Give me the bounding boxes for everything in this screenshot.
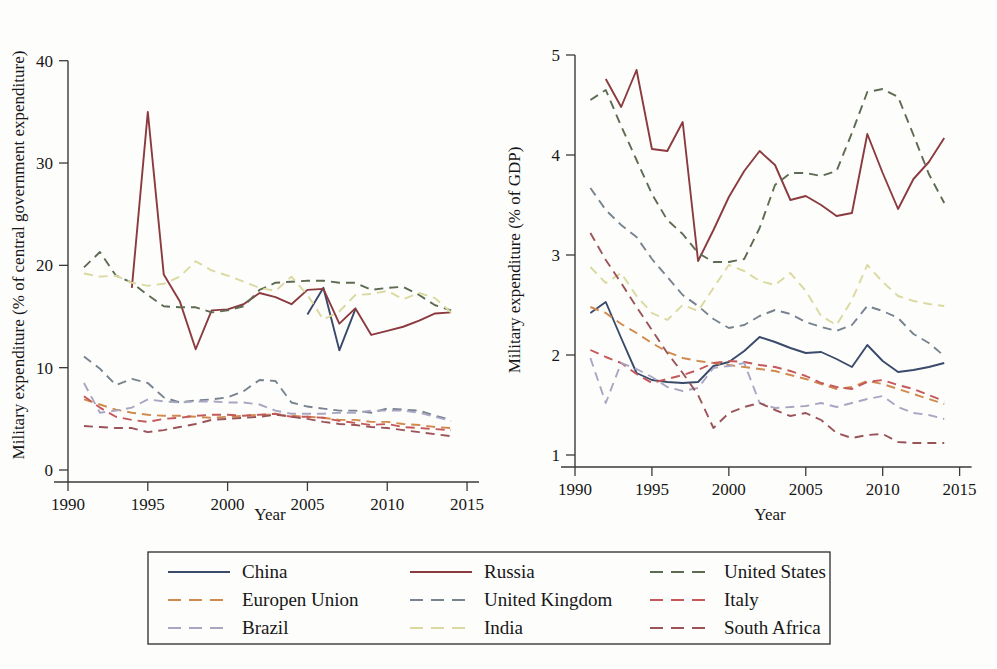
x-tick-label: 2000: [712, 480, 746, 499]
y-tick-label: 2: [552, 346, 561, 365]
legend-label-united-kingdom: United Kingdom: [484, 589, 612, 610]
y-tick-label: 4: [552, 146, 561, 165]
right-xlabel: Year: [754, 505, 786, 524]
legend-label-south-africa: South Africa: [724, 617, 821, 638]
left-xlabel: Year: [254, 505, 286, 524]
legend: ChinaRussiaUnited StatesEuropen UnionUni…: [148, 552, 830, 644]
x-tick-label: 1995: [635, 480, 669, 499]
y-tick-label: 10: [36, 359, 53, 378]
x-tick-label: 2010: [866, 480, 900, 499]
y-tick-label: 0: [45, 461, 54, 480]
legend-entries: ChinaRussiaUnited StatesEuropen UnionUni…: [168, 561, 826, 638]
figure-container: 010203040199019952000200520102015 Milita…: [0, 0, 997, 669]
legend-label-india: India: [484, 617, 524, 638]
legend-label-china: China: [242, 561, 288, 582]
y-tick-label: 1: [552, 446, 561, 465]
y-tick-label: 20: [36, 256, 53, 275]
x-tick-label: 1995: [131, 495, 165, 514]
x-tick-label: 1990: [51, 495, 85, 514]
x-tick-label: 1990: [558, 480, 592, 499]
military-expenditure-figure: 010203040199019952000200520102015 Milita…: [0, 0, 997, 669]
y-tick-label: 40: [36, 52, 53, 71]
legend-label-united-states: United States: [724, 561, 826, 582]
legend-label-italy: Italy: [724, 589, 759, 610]
x-tick-label: 2005: [789, 480, 823, 499]
x-tick-label: 2015: [450, 495, 484, 514]
legend-label-brazil: Brazil: [242, 617, 288, 638]
left-ylabel: Military expenditure (% of central gover…: [9, 51, 28, 460]
legend-label-europen-union: Europen Union: [242, 589, 359, 610]
x-tick-label: 2005: [290, 495, 324, 514]
y-tick-label: 30: [36, 154, 53, 173]
x-tick-label: 2000: [211, 495, 245, 514]
y-tick-label: 3: [552, 246, 561, 265]
x-tick-label: 2015: [943, 480, 977, 499]
legend-label-russia: Russia: [484, 561, 535, 582]
x-tick-label: 2010: [370, 495, 404, 514]
right-ylabel: Military expenditure (% of GDP): [505, 147, 524, 374]
y-tick-label: 5: [552, 46, 561, 65]
